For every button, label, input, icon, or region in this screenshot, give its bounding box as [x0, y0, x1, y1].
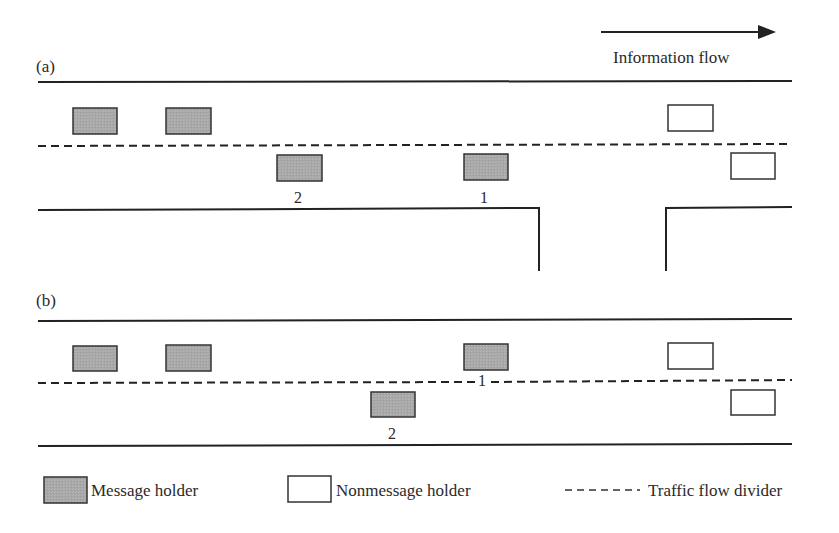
- vehicle-number-1: 1: [478, 373, 486, 389]
- nonmessage-holder-vehicle: [668, 105, 713, 131]
- message-holder-vehicle: [73, 108, 117, 134]
- diagram-canvas: [0, 0, 839, 533]
- panel-a: [38, 81, 792, 271]
- road-edge-bottom-right: [666, 207, 792, 271]
- nonmessage-holder-vehicle: [731, 390, 775, 415]
- message-holder-vehicle-1: [464, 154, 508, 180]
- road-edge-bottom: [38, 444, 792, 446]
- vehicle-number-1: 1: [480, 190, 488, 206]
- message-holder-vehicle-1: [464, 344, 508, 370]
- legend-nonmessage-holder-swatch: [288, 476, 331, 502]
- message-holder-vehicle-2: [277, 155, 322, 181]
- traffic-flow-divider: [38, 144, 792, 146]
- panel-b-label: (b): [36, 292, 56, 309]
- information-flow-arrow-icon: [601, 25, 776, 39]
- panel-b: [38, 319, 792, 446]
- traffic-flow-divider-right: [491, 380, 792, 382]
- vehicle-number-2: 2: [388, 426, 396, 442]
- message-holder-vehicle: [166, 345, 211, 371]
- road-edge-top: [38, 319, 792, 321]
- road-edge-bottom-left: [38, 208, 539, 271]
- nonmessage-holder-vehicle: [731, 153, 775, 179]
- road-edge-top: [38, 81, 792, 82]
- nonmessage-holder-vehicle: [668, 343, 713, 369]
- message-holder-vehicle-2: [371, 392, 415, 417]
- legend-message-holder-label: Message holder: [91, 482, 198, 499]
- message-holder-vehicle: [166, 108, 211, 134]
- traffic-flow-divider-left: [38, 382, 476, 383]
- vehicle-number-2: 2: [294, 190, 302, 206]
- legend-message-holder-swatch: [44, 477, 87, 503]
- legend-traffic-flow-divider-label: Traffic flow divider: [648, 482, 782, 499]
- information-flow-label: Information flow: [613, 49, 730, 66]
- message-holder-vehicle: [73, 346, 117, 371]
- legend-nonmessage-holder-label: Nonmessage holder: [336, 482, 471, 499]
- panel-a-label: (a): [36, 58, 55, 75]
